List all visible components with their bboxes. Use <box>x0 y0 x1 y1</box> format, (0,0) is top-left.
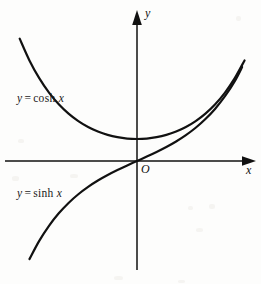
sinh-curve-label: y=sinh x <box>17 187 62 199</box>
cosh-label-equals: = <box>22 92 33 104</box>
cosh-label-argument: x <box>59 92 64 104</box>
cosh-label-function: cosh <box>33 92 55 104</box>
cosh-curve <box>20 39 245 139</box>
cosh-curve-label: y=cosh x <box>17 92 64 104</box>
hyperbolic-functions-figure: y x O y=cosh x y=sinh x <box>0 0 261 284</box>
scan-speck <box>12 176 19 181</box>
scan-speck <box>70 174 78 178</box>
x-axis-label: x <box>246 163 251 178</box>
plot-canvas <box>0 0 261 284</box>
sinh-label-function: sinh <box>33 187 53 199</box>
sinh-label-equals: = <box>22 187 33 199</box>
y-axis-arrowhead <box>132 10 142 25</box>
scan-speck <box>178 280 185 283</box>
scan-speck <box>236 16 241 21</box>
scan-speck <box>18 139 24 143</box>
scan-speck <box>114 276 123 280</box>
origin-label: O <box>141 162 150 177</box>
scan-speck <box>188 206 193 210</box>
y-axis-label: y <box>145 6 150 21</box>
sinh-label-argument: x <box>57 187 62 199</box>
scan-speck <box>209 204 215 209</box>
scan-speck <box>196 228 203 232</box>
